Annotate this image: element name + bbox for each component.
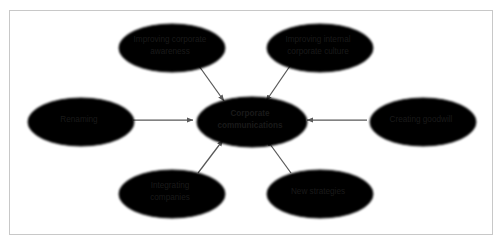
- figure-root: Improving corporate awareness Improving …: [0, 0, 503, 244]
- node-label-line2: companies: [150, 193, 190, 202]
- node-corporate-communications-hub[interactable]: Corporate communications: [195, 95, 305, 145]
- node-label-line1: Creating goodwill: [390, 115, 453, 124]
- arrow-strategies-to-hub: [267, 140, 291, 173]
- concept-map-diagram: Improving corporate awareness Improving …: [0, 0, 503, 244]
- node-label-line1: Renaming: [60, 115, 98, 124]
- node-creating-goodwill[interactable]: Creating goodwill: [368, 96, 474, 144]
- node-label-line2: awareness: [150, 47, 190, 56]
- node-label-line1: Integrating: [151, 181, 190, 190]
- arrow-awareness-to-hub: [199, 66, 224, 101]
- node-improving-internal-corporate-culture[interactable]: Improving internal corporate culture: [265, 22, 371, 70]
- node-renaming[interactable]: Renaming: [26, 96, 132, 144]
- hub-label-line2: communications: [217, 121, 283, 130]
- arrow-integrating-to-hub: [198, 140, 223, 173]
- node-label-line2: corporate culture: [287, 47, 349, 56]
- node-new-strategies[interactable]: New strategies: [265, 168, 371, 216]
- node-integrating-companies[interactable]: Integrating companies: [117, 168, 223, 216]
- node-ellipse: [117, 168, 223, 216]
- arrow-culture-to-hub: [266, 66, 290, 101]
- node-label-line1: New strategies: [291, 187, 345, 196]
- hub-ellipse: [195, 95, 305, 145]
- node-ellipse: [117, 22, 223, 70]
- node-ellipse: [265, 22, 371, 70]
- node-improving-corporate-awareness[interactable]: Improving corporate awareness: [117, 22, 223, 70]
- node-label-line1: Improving corporate: [134, 35, 207, 44]
- hub-label-line1: Corporate: [230, 109, 270, 118]
- node-label-line1: Improving internal: [285, 35, 350, 44]
